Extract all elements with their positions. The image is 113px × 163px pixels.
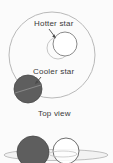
hotter-star-label: Hotter star xyxy=(34,19,74,28)
side-view-cooler-star xyxy=(17,136,49,163)
binary-star-diagram: Hotter star Cooler star Top view xyxy=(0,0,113,163)
cooler-star-label: Cooler star xyxy=(33,67,74,76)
hotter-star-body xyxy=(53,32,77,56)
cooler-star-body xyxy=(14,75,42,103)
side-view-group xyxy=(4,136,108,163)
hotter-star-pointer-arrow xyxy=(49,29,56,39)
top-view-caption: Top view xyxy=(38,109,71,118)
side-view-hotter-star xyxy=(53,138,79,163)
